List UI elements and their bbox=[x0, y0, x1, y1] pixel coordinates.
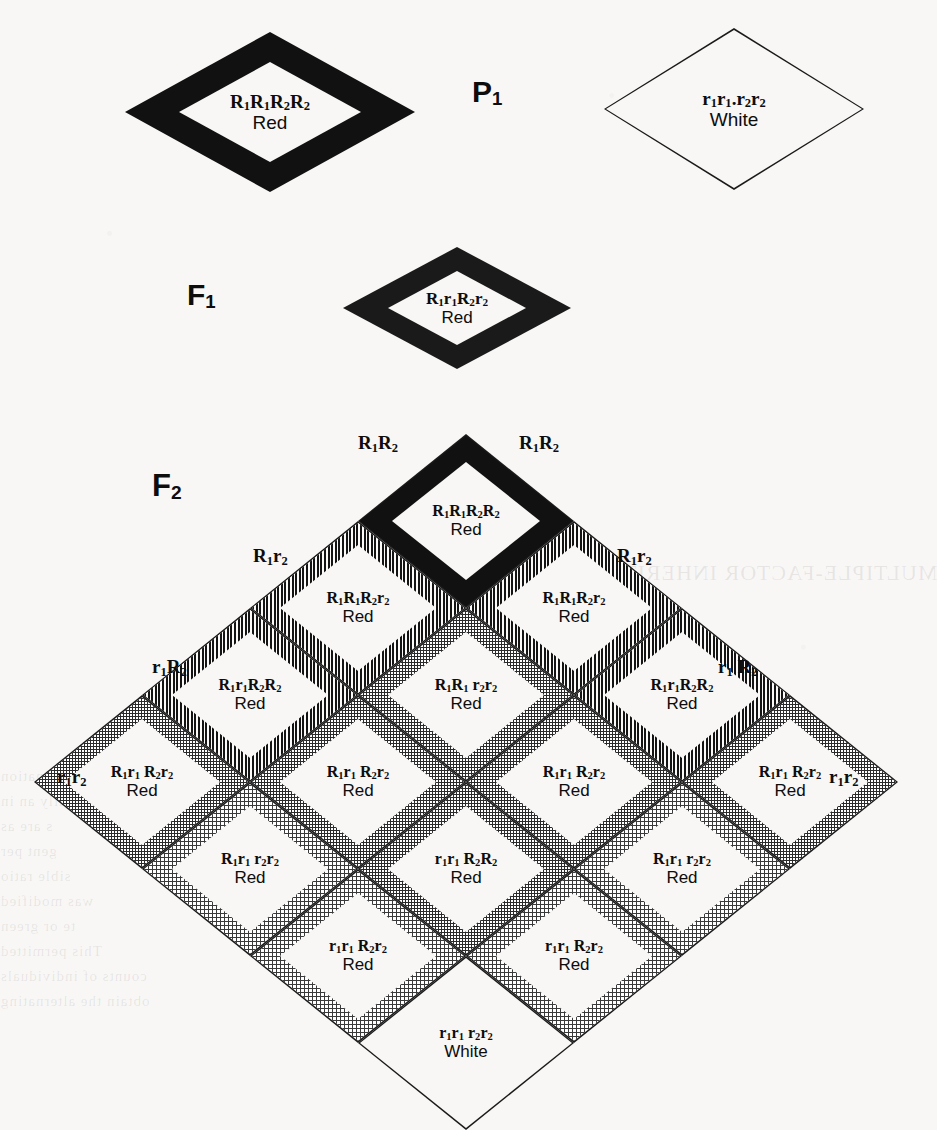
stage-label-f2: F2 bbox=[152, 468, 182, 504]
f2-cell-phenotype: Red bbox=[651, 695, 714, 713]
f2-cell-genotype: r1r1 r2r2 bbox=[439, 1025, 493, 1042]
f2-cell: r1r1 r2r2White bbox=[358, 956, 574, 1130]
f2-cell-genotype: R1R1R2r2 bbox=[543, 590, 606, 607]
f2-cell-genotype: R1r1 r2r2 bbox=[221, 851, 279, 868]
f2-cell-label: R1R1 r2r2Red bbox=[435, 677, 497, 713]
f2-cell-label: r1r1 R2r2Red bbox=[545, 938, 603, 974]
gamete-label-lower-left: r1r2 bbox=[57, 766, 86, 788]
f2-cell-genotype: r1r1 R2R2 bbox=[435, 851, 497, 868]
f2-cell-label: R1R1R2R2Red bbox=[432, 503, 499, 539]
f2-cell-genotype: R1r1R2R2 bbox=[651, 677, 714, 694]
f2-cell-label: r1r1 R2r2Red bbox=[329, 938, 387, 974]
f2-cell-phenotype: Red bbox=[219, 695, 282, 713]
p1-parent-white-phenotype: White bbox=[702, 110, 766, 130]
f2-cell-label: R1r1 r2r2Red bbox=[653, 851, 711, 887]
f2-cell-label: R1R1R2r2Red bbox=[543, 590, 606, 626]
p1-parent-red-phenotype: Red bbox=[230, 113, 310, 133]
f2-cell-phenotype: Red bbox=[432, 521, 499, 539]
f2-cell-phenotype: Red bbox=[327, 608, 390, 626]
p1-parent-white-label: r1r1.r2r2 White bbox=[702, 89, 766, 130]
f1-offspring-label: R1r1R2r2 Red bbox=[426, 290, 488, 327]
f2-cell-genotype: R1r1 R2r2 bbox=[111, 764, 173, 781]
gamete-label-mid-right: r1 R2 bbox=[718, 656, 757, 678]
f2-cell-label: R1r1R2R2Red bbox=[651, 677, 714, 713]
f2-cell-phenotype: White bbox=[439, 1043, 493, 1061]
gamete-label-upper-right: R1r2 bbox=[617, 545, 652, 567]
f2-cell-label: R1r1R2R2Red bbox=[219, 677, 282, 713]
p1-parent-red-genotype: R1R1R2R2 bbox=[230, 92, 310, 112]
f2-cell-label: R1r1 R2r2Red bbox=[327, 764, 389, 800]
gamete-label-upper-left: R1r2 bbox=[253, 545, 288, 567]
f2-cell-phenotype: Red bbox=[435, 695, 497, 713]
f2-cell-genotype: R1r1 R2r2 bbox=[327, 764, 389, 781]
f2-cell-phenotype: Red bbox=[543, 608, 606, 626]
stage-label-p1: P1 bbox=[472, 75, 502, 109]
stage-label-f1: F1 bbox=[187, 278, 216, 312]
f2-cell-phenotype: Red bbox=[111, 782, 173, 800]
f2-cell-genotype: R1R1R2R2 bbox=[432, 503, 499, 520]
stage-label-p1-letter: P bbox=[472, 75, 492, 108]
f2-cell-genotype: R1r1 R2r2 bbox=[543, 764, 605, 781]
stage-label-f1-sub: 1 bbox=[205, 291, 215, 312]
f2-cell-phenotype: Red bbox=[221, 869, 279, 887]
gamete-label-lower-right: r1r2 bbox=[829, 766, 858, 788]
stage-label-f2-letter: F bbox=[152, 468, 171, 503]
f2-cell-phenotype: Red bbox=[327, 782, 389, 800]
f2-cell-phenotype: Red bbox=[543, 782, 605, 800]
f2-cell-label: R1r1 R2r2Red bbox=[543, 764, 605, 800]
f2-cell-phenotype: Red bbox=[435, 869, 497, 887]
gamete-label-top-left: R1R2 bbox=[358, 432, 398, 454]
f2-cell-label: R1R1R2r2Red bbox=[327, 590, 390, 626]
f2-cell-label: R1r1 r2r2Red bbox=[221, 851, 279, 887]
f2-cell-genotype: R1R1 r2r2 bbox=[435, 677, 497, 694]
gamete-label-top-right: R1R2 bbox=[519, 432, 559, 454]
stage-label-p1-sub: 1 bbox=[492, 88, 502, 109]
f1-offspring-phenotype: Red bbox=[426, 309, 488, 327]
f2-cell-genotype: R1R1R2r2 bbox=[327, 590, 390, 607]
f2-cell-genotype: R1r1 r2r2 bbox=[653, 851, 711, 868]
f2-cell-phenotype: Red bbox=[329, 956, 387, 974]
stage-label-f1-letter: F bbox=[187, 278, 205, 311]
f2-cell-genotype: R1r1R2R2 bbox=[219, 677, 282, 694]
f2-cell-genotype: r1r1 R2r2 bbox=[329, 938, 387, 955]
f2-cell-label: r1r1 R2R2Red bbox=[435, 851, 497, 887]
f2-cell-phenotype: Red bbox=[545, 956, 603, 974]
p1-parent-red-label: R1R1R2R2 Red bbox=[230, 92, 310, 133]
f1-offspring-genotype: R1r1R2r2 bbox=[426, 290, 488, 308]
f2-cell-genotype: r1r1 R2r2 bbox=[545, 938, 603, 955]
f2-cell-label: r1r1 r2r2White bbox=[439, 1025, 493, 1061]
f2-cell-label: R1r1 R2r2Red bbox=[111, 764, 173, 800]
f2-cell-genotype: R1r1 R2r2 bbox=[759, 764, 821, 781]
f2-cell-label: R1r1 R2r2Red bbox=[759, 764, 821, 800]
p1-parent-white-genotype: r1r1.r2r2 bbox=[702, 89, 766, 109]
f2-cell-phenotype: Red bbox=[653, 869, 711, 887]
f2-cell-phenotype: Red bbox=[759, 782, 821, 800]
stage-label-f2-sub: 2 bbox=[171, 482, 182, 503]
gamete-label-mid-left: r1R2 bbox=[152, 656, 187, 678]
